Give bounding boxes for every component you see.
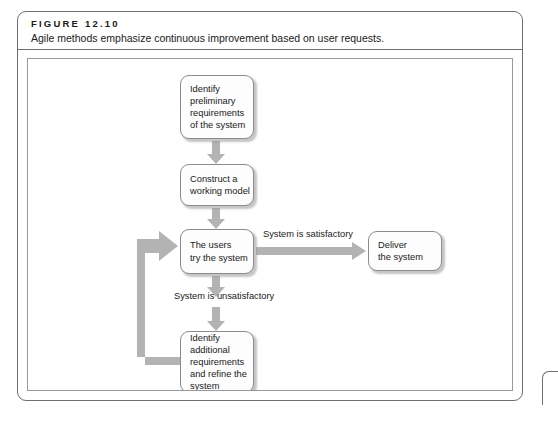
- node-label: The users try the system: [190, 239, 248, 263]
- arrow-users-to-deliver: [256, 242, 366, 260]
- figure-frame: FIGURE 12.10 Agile methods emphasize con…: [17, 11, 523, 401]
- node-users-try-system[interactable]: The users try the system: [180, 229, 254, 274]
- node-identify-additional-requirements[interactable]: Identify additional requirements and ref…: [180, 331, 254, 391]
- edge-label-system-is-satisfactory: System is satisfactory: [263, 229, 353, 239]
- node-label: Identify preliminary requirements of the…: [190, 83, 245, 132]
- node-label: Deliver the system: [378, 239, 423, 263]
- flow-arrow-layer: [28, 59, 513, 391]
- arrow-unsatisfactory-lower-segment: [207, 307, 225, 331]
- arrow-prelim-to-construct: [207, 141, 225, 164]
- diagram-canvas: Identify preliminary requirements of the…: [27, 58, 513, 391]
- node-label: Construct a working model: [190, 173, 250, 197]
- node-deliver-system[interactable]: Deliver the system: [368, 231, 442, 271]
- node-label: Identify additional requirements and ref…: [190, 332, 247, 392]
- edge-label-system-is-unsatisfactory: System is unsatisfactory: [174, 291, 274, 301]
- figure-number: FIGURE 12.10: [31, 18, 522, 30]
- arrow-construct-to-users: [207, 208, 225, 229]
- figure-header: FIGURE 12.10 Agile methods emphasize con…: [18, 12, 522, 50]
- page-edge-artifact: [542, 371, 558, 405]
- figure-caption: Agile methods emphasize continuous impro…: [31, 31, 522, 46]
- node-identify-preliminary-requirements[interactable]: Identify preliminary requirements of the…: [180, 75, 254, 139]
- node-construct-working-model[interactable]: Construct a working model: [180, 164, 254, 206]
